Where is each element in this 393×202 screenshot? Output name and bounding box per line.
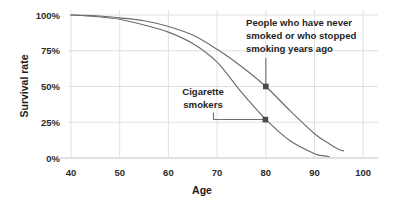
annotation-cigarette-smokers: Cigarette smokers: [182, 86, 268, 122]
annotation-never-smoked-line-3: smoking years ago: [246, 43, 333, 54]
x-tick-label-80: 80: [261, 167, 272, 178]
x-tick-label-70: 70: [212, 167, 223, 178]
x-tick-label-50: 50: [114, 167, 125, 178]
x-tick-label-60: 60: [163, 167, 174, 178]
x-axis-tick-labels: 40 50 60 70 80 90 100: [66, 167, 371, 178]
annotation-never-smoked: People who have never smoked or who stop…: [246, 17, 356, 89]
annotation-cigarette-smokers-line-2: smokers: [183, 99, 222, 110]
annotation-cigarette-smokers-leader: [214, 113, 264, 120]
survival-rate-chart: 100% 75% 50% 25% 0% 40 50 60 70 80 90 10…: [0, 0, 393, 202]
annotation-cigarette-smokers-line-1: Cigarette: [182, 86, 224, 97]
y-axis-title: Survival rate: [18, 54, 30, 117]
y-tick-label-100: 100%: [36, 10, 61, 21]
x-tick-label-40: 40: [66, 167, 77, 178]
data-marker-never-smoked-age-80: [263, 84, 269, 90]
x-axis-title: Age: [192, 184, 212, 196]
annotation-never-smoked-line-1: People who have never: [246, 17, 352, 28]
data-marker-cigarette-smokers-age-80: [263, 117, 269, 123]
y-axis-tick-labels: 100% 75% 50% 25% 0%: [36, 10, 61, 164]
y-tick-label-0: 0%: [46, 153, 60, 164]
y-tick-label-25: 25%: [41, 117, 61, 128]
y-tick-label-50: 50%: [41, 81, 61, 92]
x-tick-label-100: 100: [355, 167, 371, 178]
x-tick-label-90: 90: [309, 167, 320, 178]
chart-canvas: 100% 75% 50% 25% 0% 40 50 60 70 80 90 10…: [0, 0, 393, 202]
annotation-never-smoked-line-2: smoked or who stopped: [246, 30, 356, 41]
y-tick-label-75: 75%: [41, 45, 61, 56]
